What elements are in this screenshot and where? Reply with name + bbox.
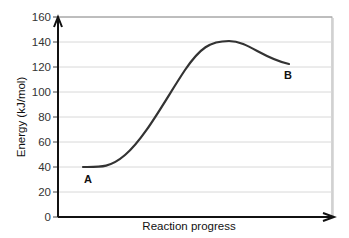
tick-label-0: 0 — [45, 211, 51, 223]
tick-label-160: 160 — [32, 11, 51, 23]
tick-label-100: 100 — [32, 86, 51, 98]
energy-diagram: 0 20 40 60 80 100 120 140 160 A B Reacti… — [0, 0, 349, 238]
point-b-label: B — [284, 69, 292, 81]
tick-label-80: 80 — [38, 111, 51, 123]
y-axis-title: Energy (kJ/mol) — [15, 77, 27, 158]
tick-label-60: 60 — [38, 136, 51, 148]
tick-label-140: 140 — [32, 36, 51, 48]
point-a-label: A — [84, 173, 92, 185]
y-tick-labels: 0 20 40 60 80 100 120 140 160 — [32, 11, 51, 223]
x-axis-title: Reaction progress — [142, 220, 236, 232]
tick-label-120: 120 — [32, 61, 51, 73]
tick-label-40: 40 — [38, 161, 51, 173]
tick-label-20: 20 — [38, 186, 51, 198]
